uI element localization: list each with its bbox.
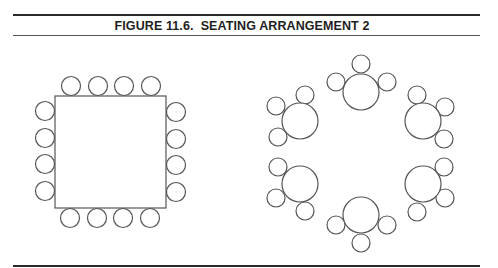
chair-right bbox=[167, 103, 186, 122]
square-table-layout bbox=[36, 77, 186, 228]
round-table bbox=[343, 74, 379, 110]
round-table bbox=[282, 103, 318, 139]
chair bbox=[435, 130, 453, 148]
bottom-rule bbox=[13, 265, 480, 267]
round-table-group-upper-left bbox=[267, 86, 318, 146]
chair bbox=[378, 216, 396, 234]
square-table bbox=[55, 96, 166, 208]
round-table-group-lower-right bbox=[405, 158, 454, 221]
chair-top bbox=[142, 77, 161, 96]
chair-right bbox=[167, 183, 186, 202]
round-table bbox=[405, 103, 441, 139]
chair-bottom bbox=[61, 209, 80, 228]
chair bbox=[408, 86, 426, 104]
chair-top bbox=[115, 77, 134, 96]
round-tables-layout bbox=[267, 55, 454, 252]
chair bbox=[269, 158, 287, 176]
round-table bbox=[405, 166, 441, 202]
chair-top bbox=[62, 77, 81, 96]
round-table-group-lower-left bbox=[267, 158, 318, 220]
chair bbox=[267, 189, 285, 207]
chair-right bbox=[167, 156, 186, 175]
chair bbox=[296, 202, 314, 220]
round-table-group-upper-right bbox=[405, 86, 454, 148]
chair-bottom bbox=[114, 209, 133, 228]
round-table bbox=[343, 197, 379, 233]
chair-left bbox=[36, 129, 55, 148]
round-table-group-bottom bbox=[327, 197, 396, 252]
chair bbox=[267, 97, 285, 115]
chair bbox=[408, 203, 426, 221]
round-table-group-top bbox=[327, 55, 396, 110]
chair bbox=[296, 86, 314, 104]
chair-bottom bbox=[88, 209, 107, 228]
chair-right bbox=[167, 130, 186, 149]
chair-left bbox=[36, 102, 55, 121]
chair-left bbox=[36, 155, 55, 174]
chair bbox=[352, 234, 370, 252]
chair-left bbox=[36, 182, 55, 201]
round-table bbox=[282, 166, 318, 202]
chair-top bbox=[89, 77, 108, 96]
chair bbox=[327, 73, 345, 91]
chair bbox=[378, 73, 396, 91]
chair bbox=[352, 55, 370, 73]
seating-diagram bbox=[0, 0, 498, 268]
chair-bottom bbox=[141, 209, 160, 228]
chair bbox=[327, 216, 345, 234]
